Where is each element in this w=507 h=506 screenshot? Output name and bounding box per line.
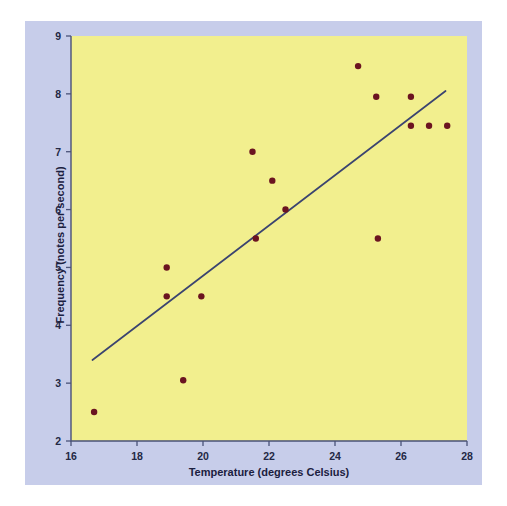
data-point-marker: [91, 409, 97, 415]
x-tick-label: 16: [56, 450, 86, 462]
x-tick-label: 20: [188, 450, 218, 462]
x-tick-label: 28: [452, 450, 482, 462]
regression-line: [92, 91, 445, 360]
scatter-plot-figure: 2345678916182022242628 Temperature (degr…: [0, 0, 507, 506]
data-point-marker: [373, 94, 379, 100]
x-tick-label: 26: [386, 450, 416, 462]
data-point-marker: [444, 122, 450, 128]
data-point-marker: [375, 235, 381, 241]
data-points: [91, 63, 451, 415]
data-point-marker: [164, 293, 170, 299]
data-point-marker: [269, 177, 275, 183]
data-point-marker: [408, 122, 414, 128]
axes: [71, 36, 467, 441]
data-point-marker: [198, 293, 204, 299]
data-point-marker: [426, 122, 432, 128]
data-point-marker: [180, 377, 186, 383]
x-tick-label: 24: [320, 450, 350, 462]
data-point-marker: [355, 63, 361, 69]
tick-marks: [66, 36, 467, 446]
data-point-marker: [249, 149, 255, 155]
x-tick-label: 18: [122, 450, 152, 462]
y-axis-title: Frequency (notes per second): [54, 43, 66, 448]
trend-line: [92, 91, 445, 360]
data-point-marker: [282, 206, 288, 212]
data-point-marker: [408, 94, 414, 100]
plot-graphics-layer: [0, 0, 507, 506]
data-point-marker: [164, 264, 170, 270]
x-axis-title: Temperature (degrees Celsius): [71, 466, 467, 478]
axis-lines: [71, 36, 467, 441]
data-point-marker: [253, 235, 259, 241]
y-tick-label: 9: [43, 30, 61, 42]
x-tick-label: 22: [254, 450, 284, 462]
